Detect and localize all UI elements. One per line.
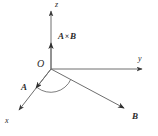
cross-product-label: A×B [58, 32, 76, 41]
z-axis-label: z [55, 1, 58, 9]
vector-a-line [36, 69, 51, 88]
vector-b-label: B [132, 112, 138, 121]
vector-diagram-figure: z y x O A B A×B [0, 0, 158, 136]
x-axis-label: x [5, 117, 9, 125]
origin-label: O [37, 59, 44, 69]
cross-product-operand-b: B [70, 31, 76, 41]
y-axis-label: y [138, 55, 142, 63]
angle-arc [37, 79, 71, 92]
vector-b-line [51, 69, 124, 108]
vector-a-label: A [21, 83, 27, 92]
